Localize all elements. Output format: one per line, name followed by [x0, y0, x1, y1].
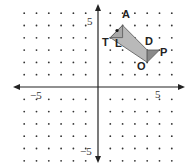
label-a: A — [122, 8, 130, 20]
shape-triangle-dpo — [147, 50, 159, 62]
label-p: P — [160, 46, 167, 58]
x-axis-right-arrow-icon — [178, 84, 185, 90]
y-axis-down-arrow-icon — [95, 156, 101, 163]
y-axis — [95, 4, 101, 163]
x-axis-left-arrow-icon — [13, 84, 20, 90]
label-t: T — [102, 36, 109, 48]
x-tick-neg5: −5 — [30, 89, 42, 101]
label-l: L — [115, 37, 122, 49]
coordinate-plane: −5 5 5 −5 A T L D P O — [0, 0, 190, 166]
label-d: D — [145, 35, 153, 47]
point-l-marker — [115, 29, 118, 32]
x-tick-pos5: 5 — [155, 88, 161, 100]
label-o: O — [137, 60, 146, 72]
y-tick-pos5: 5 — [87, 15, 93, 27]
y-axis-up-arrow-icon — [95, 4, 101, 11]
y-tick-neg5: −5 — [80, 145, 92, 157]
